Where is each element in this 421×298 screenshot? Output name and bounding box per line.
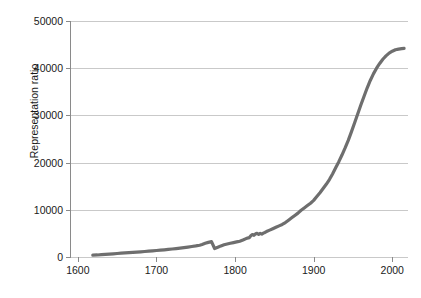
x-tick-label: 1800 (223, 265, 246, 276)
y-tick-mark (66, 257, 71, 258)
y-tick-label: 40000 (34, 63, 63, 74)
x-tick-label: 2000 (381, 265, 404, 276)
x-tick-label: 1600 (66, 265, 89, 276)
y-tick-label: 20000 (34, 157, 63, 168)
x-tick-mark (314, 257, 315, 262)
series-line-representation-ratio (70, 21, 408, 257)
x-tick-mark (392, 257, 393, 262)
x-tick-mark (156, 257, 157, 262)
y-tick-label: 50000 (34, 16, 63, 27)
gridline (70, 257, 408, 258)
chart-figure: Representation ratio 0100002000030000400… (0, 0, 421, 298)
x-tick-mark (235, 257, 236, 262)
y-tick-label: 30000 (34, 110, 63, 121)
plot-area: 01000020000300004000050000 1600170018001… (70, 21, 408, 257)
y-tick-label: 10000 (34, 205, 63, 216)
x-tick-label: 1900 (302, 265, 325, 276)
x-tick-mark (78, 257, 79, 262)
y-tick-label: 0 (57, 252, 63, 263)
x-tick-label: 1700 (145, 265, 168, 276)
